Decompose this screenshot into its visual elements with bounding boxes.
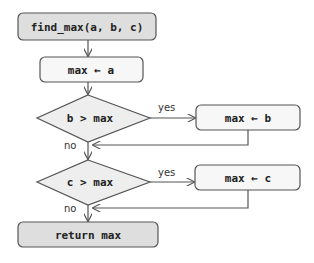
- assign-c-label: max ← c: [225, 172, 271, 185]
- start-label: find_max(a, b, c): [31, 21, 144, 34]
- assign-c-node: max ← c: [195, 165, 300, 190]
- no-label-1: no: [64, 140, 76, 151]
- yes-label-1: yes: [158, 102, 175, 113]
- decision-node-2: c > max: [37, 160, 150, 205]
- decision-node-1: b > max: [37, 95, 150, 142]
- cond2-label: c > max: [67, 176, 114, 189]
- flowchart-canvas: find_max(a, b, c) max ← a b > max yes no…: [0, 0, 314, 263]
- cond1-label: b > max: [67, 112, 114, 125]
- yes-label-2: yes: [158, 167, 175, 178]
- no-label-2: no: [64, 203, 76, 214]
- end-label: return max: [55, 229, 122, 242]
- init-label: max ← a: [68, 64, 114, 77]
- init-node: max ← a: [40, 57, 143, 82]
- assign-b-label: max ← b: [225, 112, 272, 125]
- edge-assignb-merge: [93, 130, 248, 145]
- start-node: find_max(a, b, c): [18, 13, 156, 40]
- assign-b-node: max ← b: [196, 105, 300, 130]
- end-node: return max: [18, 222, 158, 247]
